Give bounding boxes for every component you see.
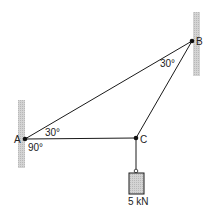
joint-b (190, 39, 195, 44)
weight-block (129, 173, 144, 194)
angle-b: 30° (160, 58, 175, 69)
angle-a-lower: 90° (28, 142, 43, 153)
label-c: C (140, 134, 147, 145)
member-bc (136, 41, 192, 138)
member-ab (25, 41, 192, 139)
label-b: B (196, 36, 203, 47)
member-ac (25, 138, 136, 139)
joint-a (23, 137, 28, 142)
load-label: 5 kN (128, 196, 149, 207)
hook (134, 169, 138, 173)
truss-diagram: A B C 30° 90° 30° 5 kN (0, 0, 214, 217)
angle-a-upper: 30° (45, 127, 60, 138)
joint-c (134, 136, 139, 141)
label-a: A (14, 134, 21, 145)
